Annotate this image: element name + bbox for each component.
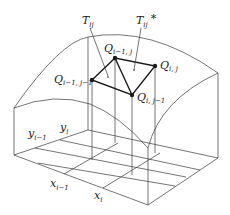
surface-right-lower-edge xyxy=(148,73,218,148)
label-y-i: yi xyxy=(59,121,68,136)
grid-line-y-im1 xyxy=(38,163,175,186)
label-x-i: xi xyxy=(94,189,102,204)
point-Q-im1-j xyxy=(113,56,117,60)
label-y-im1: yi−1 xyxy=(27,127,47,142)
base-left-front-edge xyxy=(14,155,148,205)
label-Q-i-jm1: Qi, j−1 xyxy=(137,91,165,105)
point-Q-i-jm1 xyxy=(130,93,134,97)
base-right-front-edge xyxy=(148,158,218,205)
grid-line-y-i xyxy=(60,140,200,170)
surface-grid-diagram: Tij Tij* Qi−1, j Qi, j Qi−1, j−1 Qi, j−1… xyxy=(0,0,230,215)
point-Q-i-j xyxy=(153,64,157,68)
T_ij-dot xyxy=(107,76,109,78)
T_ij_star-dot xyxy=(133,69,135,71)
surface-top-edge xyxy=(14,35,218,108)
label-T_ij: Tij xyxy=(82,14,95,29)
label-Q-im1-j: Qi−1, j xyxy=(104,42,133,56)
label-Q-im1-jm1: Qi−1, j−1 xyxy=(54,73,93,87)
label-T_ij_star: Tij* xyxy=(136,12,157,29)
label-Q-i-j: Qi, j xyxy=(160,59,179,73)
label-x-im1: xi−1 xyxy=(50,177,69,192)
grid-line-x-im1 xyxy=(64,143,118,174)
base-back-right-edge xyxy=(88,130,218,158)
